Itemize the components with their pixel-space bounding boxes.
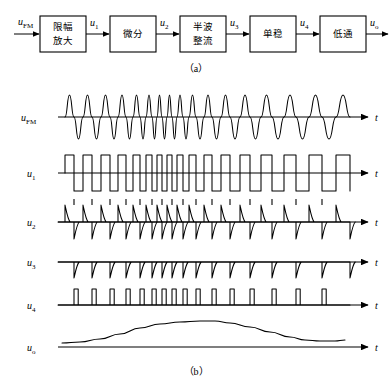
block-low-pass-filter: 低通 xyxy=(320,16,366,52)
block-label-line2: 放大 xyxy=(53,35,73,46)
waveform-label-u1: u1 xyxy=(27,168,36,182)
block-limiter-amplifier: 限幅 放大 xyxy=(40,16,86,52)
interstage-label-u4: u4 xyxy=(300,17,309,31)
axis-label-t-ufm: t xyxy=(375,112,378,123)
waveform-traces xyxy=(58,95,355,343)
waveform-tickmarks xyxy=(74,199,322,205)
axis-label-t-u4: t xyxy=(375,300,378,311)
block-input-label: uFM xyxy=(18,16,34,30)
block-half-wave-rectifier: 半波 整流 xyxy=(180,16,226,52)
axis-label-t-u3: t xyxy=(375,257,378,268)
caption-a: （a） xyxy=(184,63,208,74)
waveform-row-labels: uFMu1u2u3u4uo xyxy=(21,112,37,356)
waveform-axes: tttttt xyxy=(58,112,378,353)
interstage-label-u2: u2 xyxy=(160,17,169,31)
figure-root: uFM 限幅 放大 微分 半波 整流 单稳 低通 xyxy=(0,0,392,385)
block-label-line1: 微分 xyxy=(123,28,143,39)
waveform-label-ufm: uFM xyxy=(21,112,37,126)
axis-label-t-u1: t xyxy=(375,168,378,179)
block-label-line1: 半波 xyxy=(193,21,213,32)
block-label-line1: 限幅 xyxy=(53,21,73,32)
caption-b: （b） xyxy=(184,366,209,377)
waveform-label-u2: u2 xyxy=(27,217,36,231)
block-output-label: uo xyxy=(370,17,379,31)
block-label-line1: 单稳 xyxy=(263,28,283,39)
waveform-label-u3: u3 xyxy=(27,257,36,271)
fm-demodulator-figure: uFM 限幅 放大 微分 半波 整流 单稳 低通 xyxy=(0,0,392,385)
waveform-panel: tttttt uFMu1u2u3u4uo （b） xyxy=(21,95,378,377)
axis-label-t-u2: t xyxy=(375,217,378,228)
waveform-trace-u2 xyxy=(58,205,355,239)
waveform-trace-u3 xyxy=(58,262,355,278)
interstage-label-u1: u1 xyxy=(90,17,99,31)
block-label-line1: 低通 xyxy=(333,28,353,39)
waveform-trace-u4 xyxy=(58,289,350,305)
waveform-trace-uo xyxy=(62,321,345,343)
waveform-label-u4: u4 xyxy=(27,300,36,314)
waveform-label-uo: uo xyxy=(27,342,36,356)
block-label-line2: 整流 xyxy=(193,35,213,46)
interstage-label-u3: u3 xyxy=(230,17,239,31)
block-diagram: uFM 限幅 放大 微分 半波 整流 单稳 低通 xyxy=(14,16,388,74)
block-differentiator: 微分 xyxy=(110,16,156,52)
block-monostable: 单稳 xyxy=(250,16,296,52)
axis-label-t-uo: t xyxy=(375,342,378,353)
